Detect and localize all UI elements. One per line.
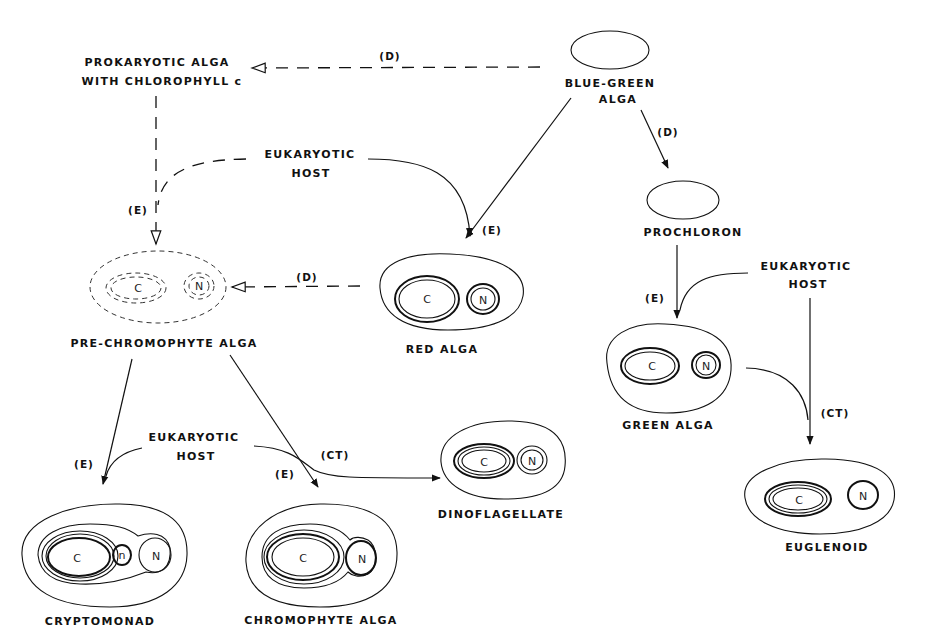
node-prochloron: PROCHLORON (643, 181, 742, 239)
green-alga-nucleus-label: N (702, 360, 710, 373)
euglenoid-label: EUGLENOID (785, 541, 868, 554)
host-top-left-label-1: EUKARYOTIC (265, 148, 356, 161)
edge-host-to-red-alga (368, 159, 470, 236)
chromophyte-nucleus-label: N (358, 553, 366, 566)
host-right: EUKARYOTIC HOST (761, 260, 852, 291)
dinoflagellate-chloroplast-label: C (480, 456, 488, 469)
host-top-left-label-2: HOST (291, 167, 330, 180)
edge-blue-green-to-prochloron (641, 110, 668, 168)
prokaryotic-label-2: WITH CHLOROPHYLL c (82, 75, 243, 88)
red-alga-nucleus-label: N (479, 294, 487, 307)
host-bottom: EUKARYOTIC HOST (149, 431, 240, 463)
prochloron-cell-icon (647, 181, 719, 219)
endosymbiosis-diagram: BLUE-GREEN ALGA PROKARYOTIC ALGA WITH CH… (0, 0, 930, 643)
edge-label-ct-euglenoid: (CT) (821, 407, 849, 419)
host-right-label-1: EUKARYOTIC (761, 260, 852, 273)
edge-label-d-1: (D) (379, 50, 400, 62)
prochloron-label: PROCHLORON (643, 226, 742, 239)
green-alga-label: GREEN ALGA (622, 419, 714, 432)
cryptomonad-chloroplast-label: C (73, 552, 81, 565)
blue-green-label: BLUE-GREEN (565, 77, 656, 90)
node-pre-chromophyte-alga: C N PRE-CHROMOPHYTE ALGA (70, 251, 257, 350)
chromophyte-cell-icon (246, 504, 397, 607)
node-green-alga: C N GREEN ALGA (607, 324, 732, 432)
edge-red-alga-to-pre-chromophyte (232, 286, 360, 287)
edge-green-alga-to-euglenoid (746, 368, 808, 420)
edge-label-e-cryptomonad: (E) (74, 458, 94, 470)
chromophyte-label: CHROMOPHYTE ALGA (244, 614, 397, 627)
pre-chromophyte-nucleus-label: N (195, 280, 203, 293)
prokaryotic-label-1: PROKARYOTIC ALGA (84, 56, 229, 69)
node-cryptomonad: C n N CRYPTOMONAD (22, 504, 187, 628)
blue-green-cell-icon (571, 31, 649, 69)
euglenoid-cell-icon (745, 459, 895, 534)
cryptomonad-nucleus-label: N (152, 550, 160, 563)
cryptomonad-nucleomorph-label: n (119, 549, 126, 562)
edge-blue-green-to-prokaryotic (252, 67, 540, 68)
cryptomonad-cell-icon (22, 504, 187, 607)
pre-chromophyte-label: PRE-CHROMOPHYTE ALGA (70, 337, 257, 350)
euglenoid-nucleus-label: N (859, 490, 867, 503)
dinoflagellate-nucleus-label: N (528, 455, 536, 468)
green-alga-chloroplast-label: C (648, 360, 656, 373)
node-red-alga: C N RED ALGA (380, 254, 523, 356)
cryptomonad-label: CRYPTOMONAD (45, 615, 155, 628)
blue-green-label-2: ALGA (599, 93, 637, 106)
edge-label-ct-dinoflagellate: (CT) (321, 449, 349, 461)
dinoflagellate-label: DINOFLAGELLATE (438, 508, 564, 521)
euglenoid-chloroplast-label: C (795, 494, 803, 507)
edge-label-d-3: (D) (296, 271, 317, 283)
edge-pre-chromophyte-to-cryptomonad (103, 359, 132, 484)
node-euglenoid: C N EUGLENOID (745, 459, 895, 554)
edge-host-to-green-alga (680, 273, 748, 310)
edge-label-e-pre: (E) (128, 204, 148, 216)
pre-chromophyte-cell-icon (90, 251, 226, 323)
node-dinoflagellate: C N DINOFLAGELLATE (438, 421, 565, 521)
node-chromophyte-alga: C N CHROMOPHYTE ALGA (244, 504, 397, 627)
host-bottom-label-2: HOST (176, 450, 215, 463)
edge-label-e-red: (E) (482, 224, 502, 236)
red-alga-label: RED ALGA (406, 343, 478, 356)
red-alga-chloroplast-label: C (423, 293, 431, 306)
edge-pre-chromophyte-to-chromophyte (230, 355, 318, 487)
node-prokaryotic-alga: PROKARYOTIC ALGA WITH CHLOROPHYLL c (82, 56, 243, 88)
node-blue-green-alga: BLUE-GREEN ALGA (565, 31, 656, 106)
edge-blue-green-to-red-alga (466, 98, 571, 238)
pre-chromophyte-chloroplast-label: C (134, 282, 142, 295)
edge-label-e-chromophyte: (E) (275, 468, 295, 480)
host-bottom-label-1: EUKARYOTIC (149, 431, 240, 444)
chromophyte-chloroplast-label: C (299, 552, 307, 565)
edge-label-e-green: (E) (645, 292, 665, 304)
edge-host-to-cryptomonad (106, 448, 142, 476)
host-right-label-2: HOST (788, 278, 827, 291)
host-top-left: EUKARYOTIC HOST (265, 148, 356, 180)
edge-label-d-2: (D) (657, 126, 678, 138)
edge-host-to-pre-chromophyte (158, 159, 246, 205)
